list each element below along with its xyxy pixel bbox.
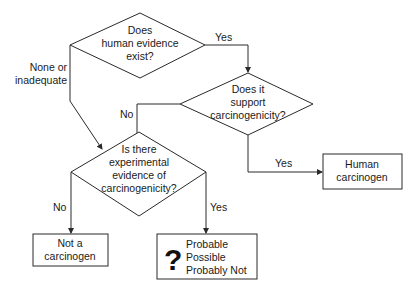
decision-experimental: Is there experimental evidence of carcin… [71,132,206,216]
edge-label-support-no: No [120,108,134,120]
result-uncertain: ? Probable Possible Probably Not [157,234,257,279]
decision-experimental-line-2: experimental [109,156,169,168]
edge-label-support-yes: Yes [275,157,292,169]
decision-experimental-line-3: evidence of [112,169,166,181]
result-uncertain-line-2: Possible [186,251,226,263]
decision-support-line-2: support [230,96,265,108]
decision-experimental-line-1: Is there [121,143,156,155]
edge-label-human-yes: Yes [215,31,232,43]
edge-label-exp-no: No [53,201,67,213]
decision-experimental-line-4: carcinogenicity? [101,182,176,194]
decision-human-evidence: Does human evidence exist? [70,13,205,78]
decision-support: Does it support carcinogenicity? [180,73,313,135]
edge-human-yes [205,45,248,72]
flowchart: Does human evidence exist? Does it suppo… [0,0,413,296]
result-human-carcinogen: Human carcinogen [323,154,402,189]
decision-support-line-1: Does it [232,83,265,95]
result-uncertain-line-1: Probable [186,238,228,250]
result-human-carcinogen-line-1: Human [345,158,379,170]
result-not-carcinogen-line-1: Not a [57,237,82,249]
edge-support-no [137,104,180,139]
decision-support-line-3: carcinogenicity? [210,109,285,121]
edge-label-exp-yes: Yes [210,201,227,213]
result-human-carcinogen-line-2: carcinogen [336,171,388,183]
edge-label-none-line-1: None or [30,61,68,73]
decision-human-evidence-line-1: Does [128,24,153,36]
decision-human-evidence-line-2: human evidence [101,37,178,49]
edge-label-none-line-2: inadequate [15,74,67,86]
result-not-carcinogen-line-2: carcinogen [44,250,96,262]
decision-human-evidence-line-3: exist? [126,50,154,62]
result-not-carcinogen: Not a carcinogen [33,234,108,266]
edge-human-none [70,45,102,149]
result-uncertain-line-3: Probably Not [186,264,247,276]
question-mark-icon: ? [164,243,182,276]
